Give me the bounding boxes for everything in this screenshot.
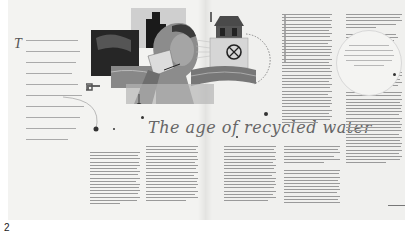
decorative-dot [113, 128, 115, 130]
body-column-3 [224, 146, 276, 203]
pull-quote-bullet [393, 73, 396, 76]
article-title: The age of recycled water [148, 118, 372, 137]
decorative-dot [141, 116, 144, 119]
pull-quote [336, 30, 402, 96]
text-line [26, 84, 78, 85]
drop-cap: T [14, 36, 22, 52]
text-line [26, 62, 76, 63]
body-column-1 [90, 152, 140, 206]
body-column-2 [146, 146, 198, 203]
body-column-5 [284, 146, 340, 205]
illustration-collage [86, 4, 281, 104]
text-line [26, 51, 80, 52]
figure-label: 2 [4, 222, 10, 233]
magazine-spread: T [8, 0, 405, 220]
text-line [26, 40, 78, 41]
decorative-dot [264, 112, 268, 116]
text-line [26, 73, 72, 74]
body-column-4 [282, 14, 332, 126]
text-line [26, 139, 68, 140]
author-signature [388, 205, 405, 206]
